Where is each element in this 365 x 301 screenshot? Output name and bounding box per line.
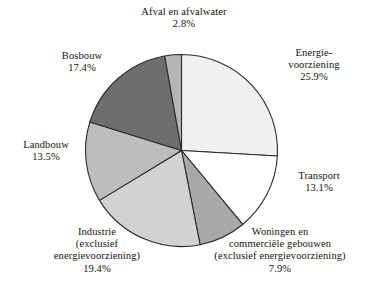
slice-label-line: commerciële gebouwen [196,238,364,250]
slice-label-afval-en-afvalwater: Afval en afvalwater 2.8% [104,6,264,30]
slice-label-line: Bosbouw [32,50,132,62]
slice-label-line: Energie- [266,47,362,59]
slice-label-line: (exclusief [16,238,178,250]
slice-label-bosbouw: Bosbouw 17.4% [32,50,132,74]
slice-label-line: voorziening [266,59,362,71]
slice-label-line: Afval en afvalwater [104,6,264,18]
slice-value-line: 13.5% [2,151,90,163]
slice-label-line: Industrie [16,226,178,238]
slice-label-line: Transport [275,170,363,182]
slice-value-line: 19.4% [16,263,178,275]
pie-chart: Afval en afvalwater 2.8% Energie- voorzi… [0,0,365,301]
slice-label-landbouw: Landbouw 13.5% [2,139,90,163]
slice-label-energievoorziening: Energie- voorziening 25.9% [266,47,362,84]
slice-value-line: 25.9% [266,71,362,83]
slice-label-line: Landbouw [2,139,90,151]
slice-label-line: Woningen en [196,226,364,238]
slice-label-line: energievoorziening) [16,250,178,262]
slice-label-line: (exclusief energievoorziening) [196,250,364,262]
slice-value-line: 17.4% [32,62,132,74]
slice-label-woningen-en-commerciele-gebouwen: Woningen en commerciële gebouwen (exclus… [196,226,364,275]
slice-label-transport: Transport 13.1% [275,170,363,194]
pie-slice [182,55,278,156]
slice-label-industrie: Industrie (exclusief energievoorziening)… [16,226,178,275]
slice-value-line: 2.8% [104,18,264,30]
slice-value-line: 7.9% [196,263,364,275]
slice-value-line: 13.1% [275,182,363,194]
